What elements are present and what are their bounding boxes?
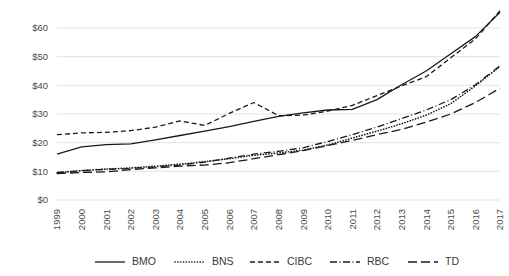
y-axis-tick-label: $60 xyxy=(32,22,48,33)
x-axis-tick-labels: 1999200020012002200320042005200620072008… xyxy=(51,209,505,230)
series-line-bmo xyxy=(57,12,500,154)
legend-label-bmo: BMO xyxy=(132,255,156,267)
x-axis-tick-label: 2000 xyxy=(76,209,87,230)
line-chart: $0$10$20$30$40$50$60 1999200020012002200… xyxy=(0,0,509,276)
x-axis-tick-label: 2012 xyxy=(371,209,382,230)
y-axis-tick-label: $30 xyxy=(32,108,48,119)
chart-legend: BMOBNSCIBCRBCTD xyxy=(95,255,459,267)
x-axis-tick-label: 1999 xyxy=(51,209,62,230)
legend-label-td: TD xyxy=(445,255,459,267)
x-axis-tick-label: 2011 xyxy=(347,209,358,229)
x-axis-tick-label: 2017 xyxy=(494,209,505,230)
x-axis-tick-label: 2015 xyxy=(445,209,456,230)
y-axis-tick-label: $40 xyxy=(32,80,48,91)
legend-label-cibc: CIBC xyxy=(287,255,313,267)
y-axis-tick-label: $0 xyxy=(37,194,48,205)
x-axis-tick-label: 2006 xyxy=(224,209,235,230)
y-axis-tick-labels: $0$10$20$30$40$50$60 xyxy=(32,22,48,205)
x-axis-tick-label: 2013 xyxy=(396,209,407,230)
x-axis-tick-label: 2001 xyxy=(101,209,112,230)
gridlines xyxy=(57,28,500,200)
x-axis-tick-label: 2014 xyxy=(421,209,432,230)
legend-label-rbc: RBC xyxy=(367,255,390,267)
chart-svg: $0$10$20$30$40$50$60 1999200020012002200… xyxy=(0,0,509,276)
y-axis-tick-label: $50 xyxy=(32,51,48,62)
y-axis-tick-label: $10 xyxy=(32,166,48,177)
x-axis-tick-label: 2003 xyxy=(150,209,161,230)
x-axis-tick-label: 2002 xyxy=(125,209,136,230)
series-layer xyxy=(57,11,500,174)
y-axis-tick-label: $20 xyxy=(32,137,48,148)
x-axis-tick-label: 2008 xyxy=(273,209,284,230)
x-axis-tick-label: 2009 xyxy=(298,209,309,230)
x-axis-tick-label: 2007 xyxy=(248,209,259,230)
x-axis-tick-label: 2005 xyxy=(199,209,210,230)
x-axis-tick-label: 2010 xyxy=(322,209,333,230)
x-axis-tick-label: 2004 xyxy=(174,209,185,230)
x-axis-tick-label: 2016 xyxy=(470,209,481,230)
legend-label-bns: BNS xyxy=(212,255,234,267)
